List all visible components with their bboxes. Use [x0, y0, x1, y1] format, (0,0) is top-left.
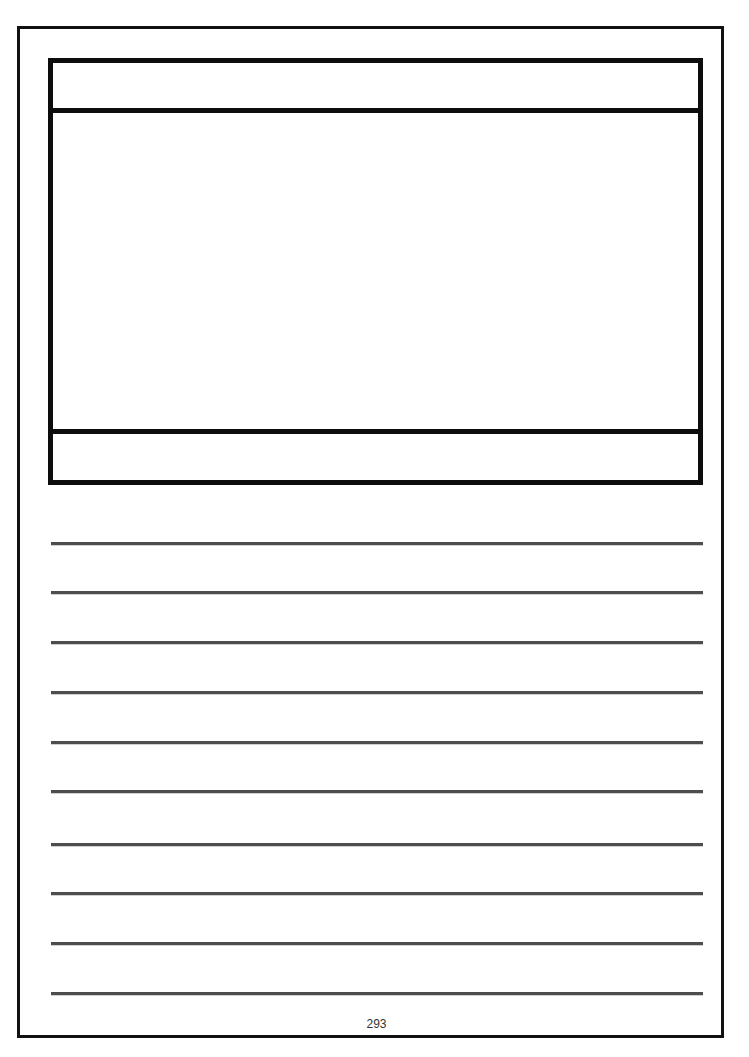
writing-line [51, 992, 703, 995]
writing-line [51, 691, 703, 694]
writing-line [51, 641, 703, 644]
writing-line [51, 843, 703, 846]
writing-line [51, 542, 703, 545]
writing-line [51, 790, 703, 793]
writing-line [51, 591, 703, 594]
writing-line [51, 892, 703, 895]
writing-lines [51, 0, 703, 1057]
writing-line [51, 741, 703, 744]
writing-line [51, 942, 703, 945]
page-number: 293 [0, 1017, 749, 1031]
